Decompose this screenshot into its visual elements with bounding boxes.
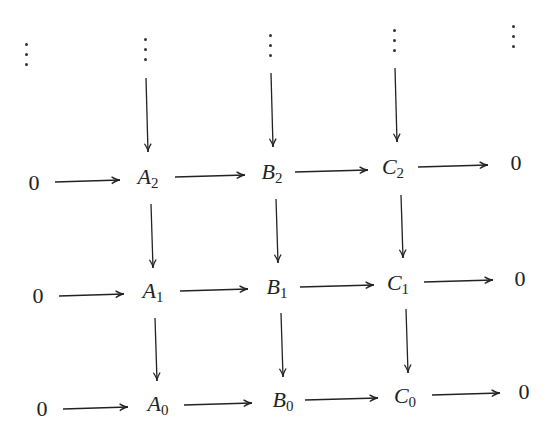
node-zero-row2: 0 — [29, 172, 40, 194]
node-c1: C1 — [387, 272, 409, 297]
arrow-c1-to-0 — [424, 277, 493, 284]
arrow-c1-to-c0 — [404, 309, 411, 373]
arrow-c2-to-c1 — [399, 195, 406, 258]
node-label: B — [273, 387, 286, 412]
node-subscript: 2 — [397, 165, 405, 181]
vertical-ellipsis-icon — [144, 38, 148, 62]
arrow-a2-to-b2 — [175, 172, 245, 179]
node-label: A — [143, 278, 156, 303]
node-b1: B1 — [267, 276, 288, 301]
vertical-ellipsis-icon — [393, 29, 397, 53]
node-a0: A0 — [148, 393, 169, 418]
arrow-b1-to-b0 — [279, 313, 286, 377]
arrow-dots-to-a2 — [144, 78, 151, 152]
node-zero-row2: 0 — [511, 152, 522, 174]
node-subscript: 1 — [402, 281, 410, 297]
node-label: B — [262, 159, 275, 184]
node-a2: A2 — [138, 166, 159, 191]
node-zero-row0: 0 — [519, 381, 530, 403]
node-label: C — [382, 154, 397, 179]
node-label: A — [138, 164, 151, 189]
node-zero-row1: 0 — [33, 285, 44, 307]
node-c2: C2 — [382, 156, 404, 181]
arrow-b2-to-b1 — [274, 199, 281, 263]
node-subscript: 0 — [409, 394, 417, 410]
arrow-dots-to-c2 — [393, 68, 400, 142]
node-label: B — [267, 274, 280, 299]
node-zero-row1: 0 — [515, 268, 526, 290]
node-b0: B0 — [273, 389, 294, 414]
node-zero-row0: 0 — [37, 398, 48, 420]
arrow-0-to-a0 — [63, 404, 128, 411]
arrow-b1-to-c1 — [300, 282, 374, 289]
arrow-a1-to-a0 — [153, 318, 160, 381]
arrow-a0-to-b0 — [184, 400, 252, 407]
arrow-b2-to-c2 — [295, 167, 368, 174]
arrow-c2-to-0 — [418, 162, 488, 169]
node-label: A — [148, 391, 161, 416]
node-c0: C0 — [394, 385, 416, 410]
node-subscript: 1 — [280, 285, 288, 301]
node-subscript: 2 — [151, 175, 159, 191]
arrow-0-to-a2 — [55, 177, 120, 184]
arrows-layer — [0, 0, 546, 439]
node-subscript: 0 — [286, 398, 294, 414]
node-subscript: 0 — [161, 402, 169, 418]
node-label: C — [394, 383, 409, 408]
arrow-b0-to-c0 — [305, 395, 378, 402]
node-a1: A1 — [143, 280, 164, 305]
node-label: C — [387, 270, 402, 295]
node-subscript: 2 — [275, 170, 283, 186]
arrow-c0-to-0 — [432, 390, 500, 397]
arrow-a1-to-b1 — [180, 286, 248, 293]
node-b2: B2 — [262, 161, 283, 186]
arrow-0-to-a1 — [59, 291, 124, 298]
vertical-ellipsis-icon — [512, 25, 516, 49]
arrow-dots-to-b2 — [269, 73, 276, 147]
node-subscript: 1 — [156, 289, 164, 305]
vertical-ellipsis-icon — [269, 34, 273, 58]
vertical-ellipsis-icon — [25, 43, 29, 67]
arrow-a2-to-a1 — [149, 204, 156, 268]
